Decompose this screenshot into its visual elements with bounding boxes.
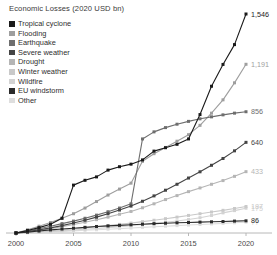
series-marker — [233, 149, 236, 152]
series-marker — [164, 146, 167, 149]
series-marker — [153, 194, 156, 197]
series-marker — [176, 183, 179, 186]
series-marker — [118, 165, 121, 168]
series-marker — [222, 179, 225, 182]
series-marker — [176, 123, 179, 126]
series-marker — [118, 209, 121, 212]
series-marker — [233, 207, 236, 210]
series-marker — [26, 229, 29, 232]
series-marker — [164, 217, 167, 220]
series-marker — [49, 228, 52, 231]
x-axis-tick-label: 2005 — [65, 239, 81, 248]
series-marker — [164, 222, 167, 225]
series-marker — [199, 113, 202, 116]
series-marker — [199, 170, 202, 173]
series-marker — [95, 216, 98, 219]
series-marker — [187, 214, 190, 217]
series-marker — [176, 143, 179, 146]
series-marker — [49, 223, 52, 226]
series-marker — [61, 224, 64, 227]
series-marker — [153, 219, 156, 222]
series-marker — [107, 224, 110, 227]
series-end-label: 187 — [251, 202, 263, 211]
series-marker — [245, 63, 248, 66]
series-marker — [187, 221, 190, 224]
series-marker — [210, 85, 213, 88]
series-marker — [222, 157, 225, 160]
chart-plot-area: 20002005201020152020771751874331,1918566… — [0, 0, 277, 255]
series-marker — [107, 169, 110, 172]
series-marker — [176, 140, 179, 143]
series-marker — [153, 130, 156, 133]
series-marker — [130, 182, 133, 185]
series-marker — [72, 212, 75, 215]
series-marker — [61, 228, 64, 231]
series-end-label: 856 — [251, 107, 263, 116]
series-marker — [72, 222, 75, 225]
series-marker — [141, 158, 144, 161]
series-marker — [187, 177, 190, 180]
series-marker — [199, 221, 202, 224]
series-marker — [84, 207, 87, 210]
series-marker — [222, 98, 225, 101]
x-axis-tick-label: 2000 — [8, 239, 24, 248]
series-end-label: 86 — [251, 216, 259, 225]
series-marker — [153, 222, 156, 225]
series-marker — [153, 150, 156, 153]
series-marker — [38, 230, 41, 233]
series-marker — [164, 189, 167, 192]
series-marker — [245, 205, 248, 208]
series-marker — [176, 216, 179, 219]
series-marker — [72, 227, 75, 230]
series-marker — [141, 206, 144, 209]
series-marker — [222, 113, 225, 116]
series-marker — [222, 63, 225, 66]
series-marker — [164, 198, 167, 201]
series-marker — [210, 214, 213, 217]
series-marker — [210, 183, 213, 186]
series-marker — [107, 212, 110, 215]
series-marker — [222, 209, 225, 212]
series-marker — [15, 232, 18, 235]
series-marker — [72, 184, 75, 187]
series-marker — [130, 223, 133, 226]
series-marker — [210, 115, 213, 118]
series-marker — [233, 43, 236, 46]
series-marker — [176, 194, 179, 197]
series-marker — [176, 221, 179, 224]
series-marker — [118, 224, 121, 227]
series-marker — [95, 225, 98, 228]
series-line[interactable] — [16, 14, 246, 233]
series-marker — [199, 216, 202, 219]
series-marker — [164, 225, 167, 228]
series-marker — [233, 175, 236, 178]
series-marker — [130, 163, 133, 166]
series-marker — [210, 211, 213, 214]
series-marker — [107, 216, 110, 219]
series-line[interactable] — [16, 64, 246, 233]
series-marker — [153, 225, 156, 228]
series-line[interactable] — [16, 142, 246, 233]
series-marker — [130, 210, 133, 213]
series-marker — [199, 124, 202, 127]
x-axis-tick-label: 2020 — [238, 239, 254, 248]
series-marker — [245, 170, 248, 173]
series-marker — [141, 200, 144, 203]
series-marker — [233, 112, 236, 115]
series-end-label: 1,191 — [251, 60, 269, 69]
series-marker — [95, 200, 98, 203]
series-marker — [187, 218, 190, 221]
series-marker — [245, 110, 248, 113]
series-marker — [187, 137, 190, 140]
series-marker — [118, 213, 121, 216]
chart-container: Economic Losses (2020 USD bn) Tropical c… — [0, 0, 277, 255]
series-marker — [187, 190, 190, 193]
series-marker — [141, 226, 144, 229]
series-end-label: 433 — [251, 167, 263, 176]
series-marker — [38, 226, 41, 229]
x-axis-tick-label: 2010 — [123, 239, 139, 248]
series-marker — [199, 212, 202, 215]
series-marker — [233, 220, 236, 223]
series-end-label: 1,546 — [251, 10, 269, 19]
series-marker — [95, 175, 98, 178]
